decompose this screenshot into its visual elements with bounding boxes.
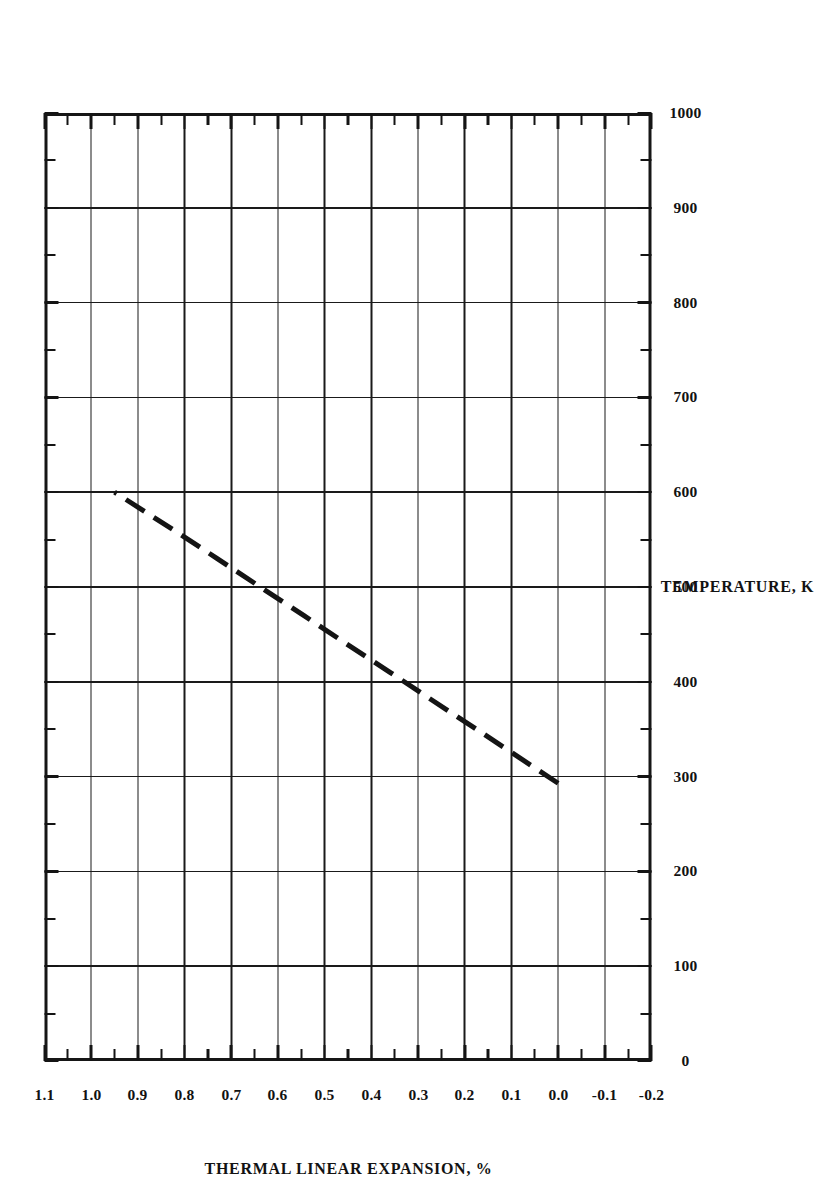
xtick-label-temperature: 200 bbox=[673, 862, 697, 880]
ytick-label-expansion: 0.3 bbox=[408, 1086, 428, 1104]
xtick-label-temperature: 800 bbox=[673, 294, 697, 312]
xtick-label-temperature: 900 bbox=[673, 199, 697, 217]
ytick-label-expansion: 1.1 bbox=[34, 1086, 54, 1104]
ytick-label-expansion: 1.0 bbox=[81, 1086, 101, 1104]
xtick-label-temperature: 100 bbox=[673, 957, 697, 975]
ytick-label-expansion: -0.2 bbox=[638, 1086, 663, 1104]
xtick-label-temperature: 0 bbox=[681, 1052, 689, 1070]
series-thermal-linear-expansion bbox=[114, 492, 558, 783]
plot-wrapper: 010020030040050060070080090010001.11.00.… bbox=[44, 113, 651, 1061]
x-axis-title: TEMPERATURE, K bbox=[660, 578, 814, 596]
ytick-label-expansion: 0.1 bbox=[501, 1086, 521, 1104]
chart-figure: 010020030040050060070080090010001.11.00.… bbox=[44, 113, 651, 1061]
xtick-label-temperature: 600 bbox=[673, 483, 697, 501]
ytick-label-expansion: 0.9 bbox=[127, 1086, 147, 1104]
ytick-label-expansion: 0.8 bbox=[174, 1086, 194, 1104]
xtick-label-temperature: 1000 bbox=[669, 104, 701, 122]
xtick-label-temperature: 700 bbox=[673, 388, 697, 406]
xtick-label-temperature: 400 bbox=[673, 673, 697, 691]
ytick-label-expansion: 0.4 bbox=[361, 1086, 381, 1104]
xtick-label-temperature: 300 bbox=[673, 768, 697, 786]
ytick-label-expansion: 0.5 bbox=[314, 1086, 334, 1104]
data-series-layer bbox=[44, 113, 651, 1061]
ytick-label-expansion: -0.1 bbox=[592, 1086, 617, 1104]
ytick-label-expansion: 0.0 bbox=[548, 1086, 568, 1104]
ytick-label-expansion: 0.7 bbox=[221, 1086, 241, 1104]
y-axis-title: THERMAL LINEAR EXPANSION, % bbox=[204, 1160, 492, 1178]
ytick-label-expansion: 0.2 bbox=[454, 1086, 474, 1104]
ytick-label-expansion: 0.6 bbox=[267, 1086, 287, 1104]
